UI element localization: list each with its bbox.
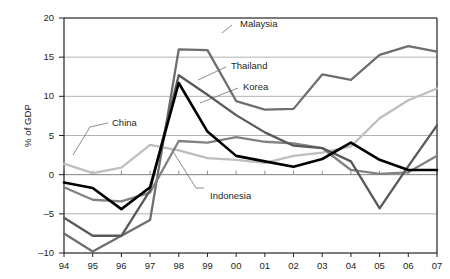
chart-plot-area — [0, 0, 450, 279]
y-tick-label: –10 — [26, 247, 54, 258]
series-line-thailand — [64, 75, 437, 236]
series-label-china: China — [112, 117, 137, 128]
x-tick-label: 06 — [397, 260, 419, 271]
series-label-thailand: Thailand — [231, 60, 267, 71]
series-line-malaysia — [64, 46, 437, 251]
x-tick-label: 95 — [82, 260, 104, 271]
y-tick-label: 10 — [26, 90, 54, 101]
x-tick-label: 02 — [283, 260, 305, 271]
x-tick-label: 00 — [225, 260, 247, 271]
x-tick-label: 05 — [369, 260, 391, 271]
chart-container: % of GDP –10–505101520 94959697989900010… — [0, 0, 450, 279]
y-tick-label: 0 — [26, 169, 54, 180]
series-label-korea: Korea — [243, 81, 268, 92]
series-label-malaysia: Malaysia — [240, 18, 278, 29]
leader-line-china — [73, 123, 108, 155]
y-tick-label: 20 — [26, 12, 54, 23]
x-tick-label: 01 — [254, 260, 276, 271]
series-label-indonesia: Indonesia — [210, 190, 251, 201]
data-series-group — [64, 46, 437, 251]
x-tick-label: 99 — [196, 260, 218, 271]
y-tick-label: –5 — [26, 208, 54, 219]
y-tick-label: 5 — [26, 130, 54, 141]
x-tick-label: 98 — [168, 260, 190, 271]
leader-line-malaysia — [222, 25, 232, 33]
x-tick-label: 07 — [426, 260, 448, 271]
x-tick-label: 96 — [110, 260, 132, 271]
x-tick-label: 97 — [139, 260, 161, 271]
y-tick-label: 15 — [26, 51, 54, 62]
x-tick-label: 03 — [311, 260, 333, 271]
x-tick-label: 94 — [53, 260, 75, 271]
x-tick-label: 04 — [340, 260, 362, 271]
